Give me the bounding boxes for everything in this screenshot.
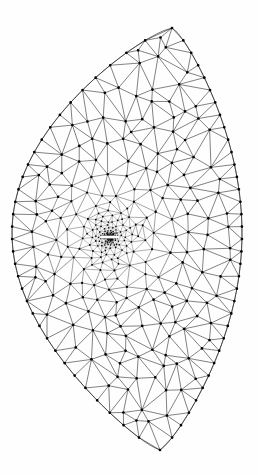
crack-slit [101,236,119,239]
mesh-figure [0,0,258,475]
mesh-edge-layer [12,28,242,450]
mesh-canvas [0,0,258,475]
mesh-node-layer [11,27,244,452]
